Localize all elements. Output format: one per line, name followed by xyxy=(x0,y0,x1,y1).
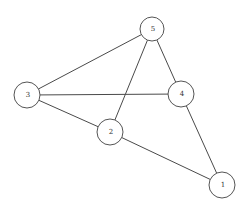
node-3: 3 xyxy=(14,82,40,108)
node-4: 4 xyxy=(168,81,194,107)
edge-4-1 xyxy=(181,94,222,185)
node-1: 1 xyxy=(209,172,235,198)
edge-3-2 xyxy=(27,95,110,132)
node-label: 5 xyxy=(151,25,155,33)
edge-5-2 xyxy=(110,29,152,132)
node-label: 1 xyxy=(221,181,225,189)
node-label: 3 xyxy=(26,91,30,99)
node-label: 2 xyxy=(109,128,113,136)
edge-2-1 xyxy=(110,132,222,185)
edge-5-3 xyxy=(27,29,152,95)
node-label: 4 xyxy=(180,90,185,98)
edge-3-4 xyxy=(27,94,181,95)
edges-group xyxy=(27,29,222,185)
graph-canvas: 53421 xyxy=(0,0,246,202)
nodes-group: 53421 xyxy=(14,17,235,198)
node-2: 2 xyxy=(97,119,123,145)
node-5: 5 xyxy=(140,17,164,41)
